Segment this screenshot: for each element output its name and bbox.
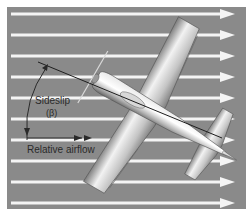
airflow-arrow-shaft	[11, 181, 223, 184]
sideslip-label: Sideslip	[35, 95, 70, 106]
sideslip-diagram: Sideslip (β) Relative airflow	[0, 0, 252, 216]
relative-airflow-label: Relative airflow	[27, 144, 96, 155]
airflow-arrow-shaft	[11, 202, 223, 205]
airflow-arrow-shaft	[11, 55, 223, 58]
airflow-arrow-shaft	[11, 13, 223, 16]
diagram-canvas: Sideslip (β) Relative airflow	[0, 0, 252, 216]
airflow-arrow-shaft	[11, 118, 223, 121]
airflow-arrow-shaft	[11, 76, 223, 79]
beta-label: (β)	[46, 108, 57, 118]
